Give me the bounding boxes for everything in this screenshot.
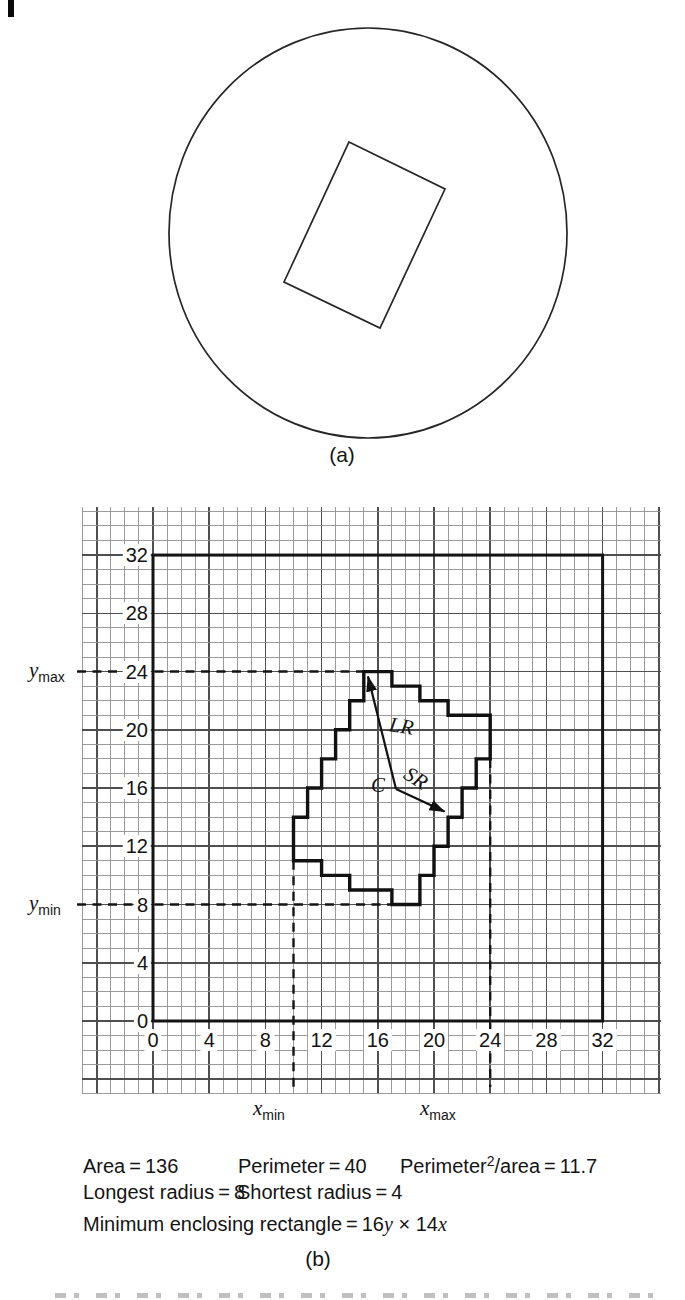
stat-min-enclosing-rectangle: Minimum enclosing rectangle=16y × 14x bbox=[83, 1214, 447, 1234]
circle-outline bbox=[169, 28, 567, 438]
y-tick-label: 0 bbox=[134, 1010, 151, 1032]
x-tick-label: 8 bbox=[257, 1029, 274, 1051]
y-tick-label: 24 bbox=[123, 661, 151, 683]
y-tick-label: 20 bbox=[123, 719, 151, 741]
y-tick-label: 8 bbox=[134, 894, 151, 916]
figure-drawing bbox=[0, 0, 685, 1300]
x-tick-label: 16 bbox=[364, 1029, 392, 1051]
stat-perimeter2-over-area: Perimeter2/area=11.7 bbox=[400, 1154, 597, 1176]
y-tick-label: 28 bbox=[123, 602, 151, 624]
cut-off-caption-fragment bbox=[55, 1293, 660, 1298]
y-tick-label: 32 bbox=[123, 544, 151, 566]
rotated-rectangle-outline bbox=[284, 142, 445, 328]
panel-b-caption: (b) bbox=[288, 1248, 348, 1269]
stat-longest-radius: Longest radius=8 bbox=[83, 1182, 245, 1202]
y-tick-label: 4 bbox=[134, 952, 151, 974]
circle-and-rectangle-drawing bbox=[169, 28, 567, 438]
stat-shortest-radius: Shortest radius=4 bbox=[237, 1182, 402, 1202]
x-tick-label: 28 bbox=[532, 1029, 560, 1051]
stat-perimeter: Perimeter=40 bbox=[238, 1156, 367, 1176]
graph-paper-grid bbox=[82, 507, 661, 1094]
x-tick-label: 20 bbox=[420, 1029, 448, 1051]
x-max-label: xmax bbox=[419, 1098, 457, 1122]
y-tick-label: 12 bbox=[123, 835, 151, 857]
x-min-label: xmin bbox=[252, 1098, 286, 1122]
y-tick-label: 16 bbox=[123, 777, 151, 799]
x-tick-label: 4 bbox=[201, 1029, 218, 1051]
x-tick-label: 24 bbox=[476, 1029, 504, 1051]
y-min-label: ymin bbox=[28, 893, 62, 917]
panel-a-caption: (a) bbox=[312, 444, 372, 465]
stat-area: Area=136 bbox=[83, 1156, 178, 1176]
x-tick-label: 0 bbox=[144, 1029, 161, 1051]
scanned-figure-page: (a) 048121620242832 048121620242832 ymax… bbox=[0, 0, 685, 1300]
longest-radius-label: LR bbox=[388, 714, 415, 739]
y-max-label: ymax bbox=[28, 660, 66, 684]
center-label: C bbox=[371, 775, 385, 796]
x-tick-label: 12 bbox=[307, 1029, 335, 1051]
x-tick-label: 32 bbox=[588, 1029, 616, 1051]
